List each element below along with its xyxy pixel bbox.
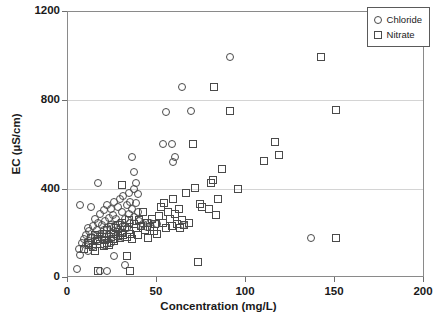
data-point-chloride <box>73 265 81 273</box>
data-point-nitrate <box>194 258 202 266</box>
x-tickmark-0 <box>67 277 68 282</box>
x-tickmark-200 <box>423 277 424 282</box>
x-tick-label-200: 200 <box>403 285 437 297</box>
x-tick-label-150: 150 <box>314 285 354 297</box>
data-point-nitrate <box>153 230 161 238</box>
data-point-nitrate <box>234 185 242 193</box>
x-tickmark-50 <box>156 277 157 282</box>
data-point-nitrate <box>182 189 190 197</box>
y-axis-title: EC (µS/cm) <box>10 64 22 224</box>
data-point-chloride <box>76 201 84 209</box>
plot-area <box>67 11 424 277</box>
data-point-nitrate <box>210 83 218 91</box>
data-point-nitrate <box>271 138 279 146</box>
square-marker-icon <box>374 31 382 39</box>
circle-marker-icon <box>374 16 382 24</box>
data-point-nitrate <box>214 195 222 203</box>
data-point-chloride <box>103 267 111 275</box>
legend: Chloride Nitrate <box>367 7 430 47</box>
data-point-nitrate <box>94 267 102 275</box>
data-point-chloride <box>178 83 186 91</box>
data-point-nitrate <box>212 211 220 219</box>
data-point-nitrate <box>189 140 197 148</box>
x-axis-title: Concentration (mg/L) <box>0 300 437 312</box>
y-tick-label-1200: 1200 <box>18 4 60 16</box>
data-point-chloride <box>226 53 234 61</box>
data-point-nitrate <box>317 53 325 61</box>
data-point-nitrate <box>218 165 226 173</box>
gridline-400 <box>68 189 423 190</box>
data-point-chloride <box>159 140 167 148</box>
data-point-chloride <box>94 179 102 187</box>
data-point-nitrate <box>169 195 177 203</box>
data-point-nitrate <box>185 219 193 227</box>
data-point-chloride <box>132 199 140 207</box>
data-point-nitrate <box>209 176 217 184</box>
data-point-chloride <box>307 234 315 242</box>
data-point-nitrate <box>332 234 340 242</box>
data-point-nitrate <box>275 151 283 159</box>
data-point-nitrate <box>260 157 268 165</box>
data-point-chloride <box>168 140 176 148</box>
data-point-chloride <box>171 153 179 161</box>
x-tickmark-150 <box>334 277 335 282</box>
data-point-nitrate <box>332 106 340 114</box>
x-tick-label-100: 100 <box>225 285 265 297</box>
data-point-nitrate <box>226 107 234 115</box>
data-point-chloride <box>134 190 142 198</box>
legend-item-chloride[interactable]: Chloride <box>374 12 422 27</box>
data-point-nitrate <box>160 199 168 207</box>
data-point-chloride <box>187 107 195 115</box>
data-point-chloride <box>162 108 170 116</box>
data-point-chloride <box>130 168 138 176</box>
legend-label-nitrate: Nitrate <box>387 29 415 40</box>
data-point-nitrate <box>175 205 183 213</box>
x-tickmark-100 <box>245 277 246 282</box>
data-point-chloride <box>132 179 140 187</box>
y-tick-label-0: 0 <box>18 270 60 282</box>
data-point-nitrate <box>91 247 99 255</box>
data-point-nitrate <box>118 181 126 189</box>
data-point-chloride <box>87 203 95 211</box>
scatter-chart: 1200 800 400 0 0 50 100 150 200 Concentr… <box>0 0 437 321</box>
y-axis-title-wrapper: EC (µS/cm) <box>10 64 30 224</box>
data-point-nitrate <box>191 184 199 192</box>
legend-label-chloride: Chloride <box>387 14 422 25</box>
data-point-nitrate <box>126 267 134 275</box>
data-point-chloride <box>128 153 136 161</box>
x-tick-label-50: 50 <box>136 285 176 297</box>
legend-item-nitrate[interactable]: Nitrate <box>374 27 422 42</box>
data-point-nitrate <box>123 252 131 260</box>
data-point-nitrate <box>139 208 147 216</box>
gridline-800 <box>68 100 423 101</box>
data-point-chloride <box>110 252 118 260</box>
x-tick-label-0: 0 <box>47 285 87 297</box>
